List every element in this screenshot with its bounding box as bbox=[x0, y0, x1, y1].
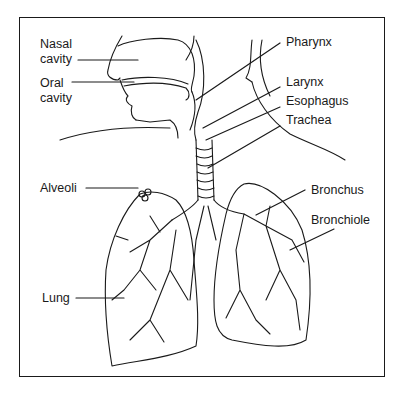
label-larynx: Larynx bbox=[286, 75, 324, 90]
label-nasal-line1: Nasal bbox=[40, 37, 72, 52]
label-alveoli: Alveoli bbox=[40, 181, 77, 196]
label-nasal-line2: cavity bbox=[40, 52, 72, 67]
label-lung: Lung bbox=[42, 291, 70, 306]
label-trachea: Trachea bbox=[286, 113, 331, 128]
label-oral-cavity: Oral cavity bbox=[40, 76, 72, 106]
label-pharynx: Pharynx bbox=[286, 35, 332, 50]
label-nasal-cavity: Nasal cavity bbox=[40, 37, 72, 67]
label-bronchus: Bronchus bbox=[311, 183, 364, 198]
label-oral-line2: cavity bbox=[40, 91, 72, 106]
label-bronchiole: Bronchiole bbox=[311, 213, 370, 228]
trachea-rings bbox=[172, 140, 244, 300]
label-oral-line1: Oral bbox=[40, 76, 72, 91]
left-lung bbox=[105, 189, 197, 366]
label-esophagus: Esophagus bbox=[286, 94, 349, 109]
right-lung bbox=[214, 183, 310, 346]
